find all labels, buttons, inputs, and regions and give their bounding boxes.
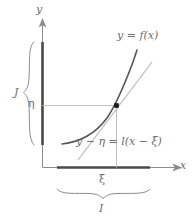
tangent-equation-label: y − η = l(x − ξ) bbox=[76, 136, 162, 147]
interval-I-label: I bbox=[99, 203, 103, 214]
brace-J bbox=[24, 42, 35, 145]
axes-group bbox=[39, 18, 182, 171]
xi-value-label: ξ bbox=[99, 174, 105, 185]
eta-value-label: η bbox=[28, 98, 35, 109]
x-axis-label: x bbox=[180, 160, 186, 171]
figure-canvas bbox=[0, 0, 196, 222]
tangent-line-figure: y x y = f(x) y − η = l(x − ξ) η ξ J I bbox=[0, 0, 196, 222]
curve-equation-label: y = f(x) bbox=[117, 30, 158, 41]
interval-J-label: J bbox=[14, 87, 18, 98]
brace-I bbox=[57, 189, 150, 199]
y-axis-label: y bbox=[36, 4, 42, 15]
tangency-point-marker bbox=[114, 103, 119, 108]
